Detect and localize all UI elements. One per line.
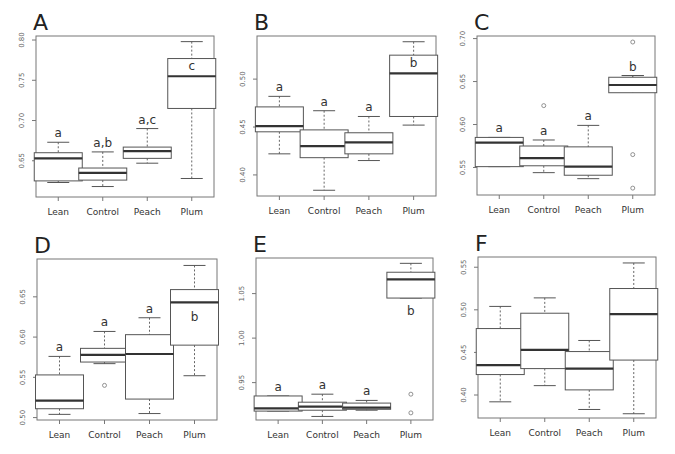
box-lean: aLean	[36, 340, 84, 440]
box-peach: aPeach	[126, 302, 174, 440]
x-category-label: Control	[306, 430, 339, 440]
y-tick-label: 0.65	[18, 153, 26, 169]
y-tick-label: 0.60	[459, 117, 467, 133]
x-category-label: Peach	[136, 430, 163, 440]
panel-e: E0.951.001.05aLeanaControlaPeachbPlum	[225, 227, 450, 454]
box-peach: aPeach	[343, 384, 391, 440]
outlier-point	[631, 186, 635, 190]
x-category-label: Control	[88, 430, 121, 440]
box-plum: Plum	[610, 263, 658, 438]
outlier-point	[631, 153, 635, 157]
significance-label: a	[320, 95, 327, 109]
significance-label: a	[56, 340, 63, 354]
significance-label: a	[540, 124, 547, 138]
outlier-point	[103, 383, 107, 387]
significance-label: b	[410, 56, 418, 70]
y-tick-label: 0.70	[18, 113, 26, 129]
outlier-point	[542, 104, 546, 108]
plot-area: 0.400.450.500.55LeanControlPeachPlum	[450, 227, 675, 454]
significance-label: a	[496, 121, 503, 135]
panel-d: D0.500.550.600.65aLeanaControlaPeachbPlu…	[0, 227, 225, 454]
panel-f: F0.400.450.500.55LeanControlPeachPlum	[450, 227, 675, 454]
y-tick-label: 0.55	[459, 160, 467, 176]
box-control: Control	[521, 298, 569, 438]
plot-area: 0.650.700.750.80aLeana,bControla,cPeachc…	[0, 0, 225, 227]
y-tick-label: 0.55	[460, 259, 468, 275]
box-peach: Peach	[565, 340, 613, 438]
significance-label: b	[407, 304, 415, 318]
x-category-label: Plum	[622, 205, 644, 215]
x-category-label: Peach	[355, 206, 382, 216]
box-control: aControl	[298, 378, 346, 440]
x-category-label: Peach	[575, 205, 602, 215]
outlier-point	[631, 40, 635, 44]
significance-label: c	[188, 59, 195, 73]
box-control: aControl	[520, 104, 568, 215]
box-peach: a,cPeach	[123, 113, 171, 217]
y-tick-label: 0.45	[239, 119, 247, 135]
x-category-label: Control	[527, 205, 560, 215]
y-tick-label: 0.40	[460, 387, 468, 403]
y-tick-label: 0.70	[459, 31, 467, 47]
outlier-point	[409, 392, 413, 396]
significance-label: a	[274, 380, 281, 394]
panel-c: C0.550.600.650.70aLeanaControlaPeachbPlu…	[450, 0, 675, 227]
y-tick-label: 0.40	[239, 167, 247, 183]
significance-label: a	[146, 302, 153, 316]
y-tick-label: 0.50	[460, 302, 468, 318]
box-lean: aLean	[254, 380, 302, 440]
significance-label: b	[629, 60, 637, 74]
box-control: aControl	[81, 315, 129, 440]
x-category-label: Plum	[400, 430, 422, 440]
y-tick-label: 0.65	[19, 289, 27, 305]
x-category-label: Control	[86, 207, 119, 217]
significance-label: a,c	[138, 113, 156, 127]
significance-label: b	[191, 310, 199, 324]
significance-label: a	[319, 378, 326, 392]
box-peach: aPeach	[345, 100, 393, 216]
x-category-label: Lean	[488, 205, 510, 215]
x-category-label: Peach	[353, 430, 380, 440]
x-category-label: Peach	[576, 428, 603, 438]
x-category-label: Peach	[134, 207, 161, 217]
outlier-point	[409, 411, 413, 415]
significance-label: a	[55, 126, 62, 140]
box-control: a,bControl	[79, 136, 127, 217]
y-tick-label: 0.95	[238, 375, 246, 391]
significance-label: a	[101, 315, 108, 329]
plot-area: 0.400.450.50aLeanaControlaPeachbPlum	[225, 0, 450, 227]
box-lean: aLean	[34, 126, 82, 217]
box-plum: bPlum	[171, 265, 219, 440]
plot-area: 0.500.550.600.65aLeanaControlaPeachbPlum	[0, 227, 225, 454]
x-category-label: Lean	[49, 430, 71, 440]
y-tick-label: 0.65	[459, 74, 467, 90]
x-category-label: Plum	[402, 206, 424, 216]
y-tick-label: 1.05	[238, 286, 246, 302]
y-tick-label: 0.80	[18, 32, 26, 48]
y-tick-label: 0.55	[19, 370, 27, 386]
x-category-label: Control	[308, 206, 341, 216]
significance-label: a,b	[93, 136, 112, 150]
x-category-label: Lean	[269, 206, 291, 216]
x-category-label: Plum	[623, 428, 645, 438]
significance-label: a	[365, 100, 372, 114]
panel-a: A0.650.700.750.80aLeana,bControla,cPeach…	[0, 0, 225, 227]
x-category-label: Lean	[267, 430, 289, 440]
y-tick-label: 0.50	[19, 410, 27, 426]
x-category-label: Control	[528, 428, 561, 438]
box-peach: aPeach	[564, 109, 612, 215]
box-plum: bPlum	[609, 40, 657, 215]
x-category-label: Lean	[47, 207, 69, 217]
box-lean: aLean	[475, 121, 523, 215]
x-category-label: Plum	[181, 207, 203, 217]
y-tick-label: 0.50	[239, 71, 247, 87]
significance-label: a	[363, 384, 370, 398]
plot-area: 0.951.001.05aLeanaControlaPeachbPlum	[225, 227, 450, 454]
y-tick-label: 0.60	[19, 329, 27, 345]
significance-label: a	[276, 80, 283, 94]
significance-label: a	[585, 109, 592, 123]
box-plum: bPlum	[390, 42, 438, 216]
plot-area: 0.550.600.650.70aLeanaControlaPeachbPlum	[450, 0, 675, 227]
box-control: aControl	[300, 95, 348, 216]
panel-b: B0.400.450.50aLeanaControlaPeachbPlum	[225, 0, 450, 227]
